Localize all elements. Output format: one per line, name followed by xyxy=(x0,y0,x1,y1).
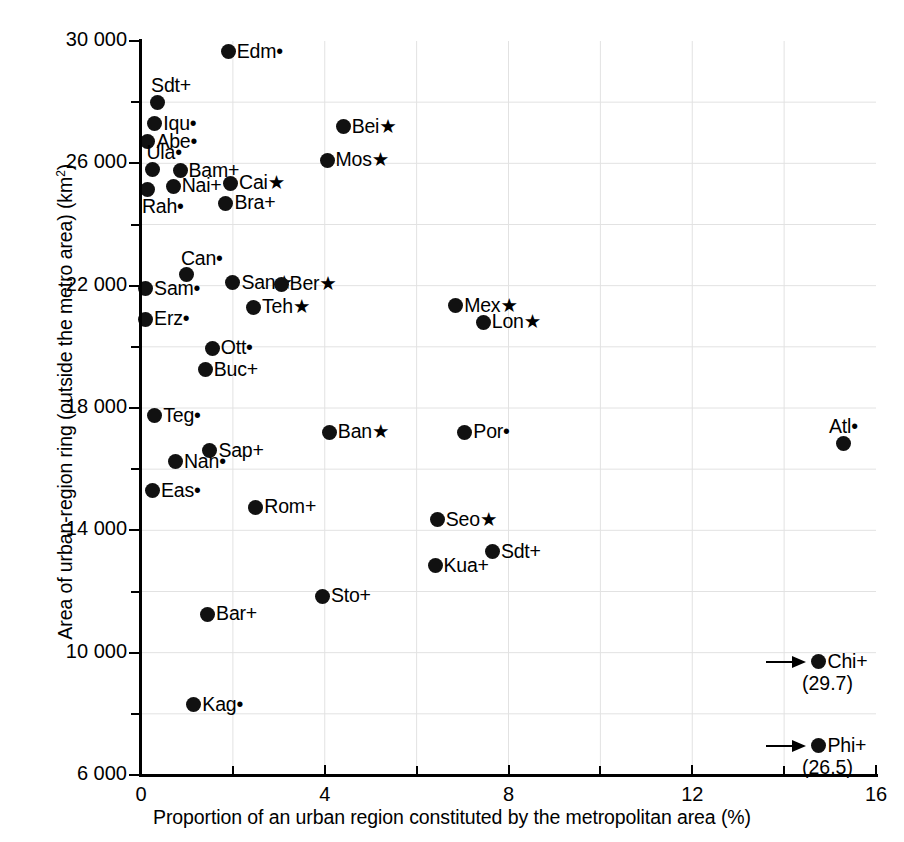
data-point-label: Teg• xyxy=(163,404,200,427)
data-point-label: Atl• xyxy=(829,415,858,438)
data-point-label: Sto+ xyxy=(331,584,371,607)
x-axis-minor-tick xyxy=(416,766,418,776)
data-point-label: Eas• xyxy=(161,479,201,502)
data-point-marker xyxy=(322,425,337,440)
data-point-label: Sam• xyxy=(154,277,200,300)
data-point-label: Sdt+ xyxy=(151,74,191,97)
data-point-marker xyxy=(218,196,233,211)
data-point-label: Can• xyxy=(181,247,223,270)
x-axis-tick-label: 8 xyxy=(479,783,539,806)
y-axis-tick xyxy=(129,40,141,42)
y-axis-minor-tick xyxy=(131,101,141,103)
y-axis-tick-label: 18 000 xyxy=(7,395,127,418)
data-point-marker xyxy=(336,119,351,134)
data-point-label: Seo★ xyxy=(446,508,497,531)
x-axis-tick xyxy=(691,765,693,777)
y-axis-tick-label: 6 000 xyxy=(7,762,127,785)
data-point-marker xyxy=(168,454,183,469)
offscale-point-marker xyxy=(811,738,826,753)
y-axis-tick-label: 26 000 xyxy=(7,150,127,173)
data-point-marker xyxy=(430,512,445,527)
data-point-marker xyxy=(246,300,261,315)
data-point-label: Kag• xyxy=(202,693,243,716)
data-point-label: Teh★ xyxy=(262,295,310,318)
x-axis-tick xyxy=(875,765,877,777)
offscale-point-marker xyxy=(811,654,826,669)
x-axis-tick-label: 0 xyxy=(111,783,171,806)
data-point-label: Kua+ xyxy=(444,554,489,577)
data-point-marker xyxy=(198,362,213,377)
x-axis-tick-label: 16 xyxy=(846,783,904,806)
x-axis-tick xyxy=(324,765,326,777)
data-point-label: Nai+ xyxy=(182,174,222,197)
data-point-label: Por• xyxy=(473,420,509,443)
data-point-label: Mos★ xyxy=(336,148,390,171)
y-axis-tick-label: 10 000 xyxy=(7,640,127,663)
data-point-marker xyxy=(200,607,215,622)
y-axis-tick-label: 30 000 xyxy=(7,28,127,51)
data-point-marker xyxy=(320,153,335,168)
data-point-label: Bar+ xyxy=(216,602,257,625)
x-axis-tick-label: 12 xyxy=(662,783,722,806)
y-axis-minor-tick xyxy=(131,346,141,348)
data-point-label: Nan• xyxy=(184,450,226,473)
offscale-point-value: (26.5) xyxy=(802,756,853,779)
data-point-marker xyxy=(145,483,160,498)
x-axis-tick xyxy=(508,765,510,777)
x-axis-minor-tick xyxy=(232,766,234,776)
offscale-arrow-icon xyxy=(766,653,808,671)
y-axis-tick xyxy=(129,652,141,654)
x-axis-minor-tick xyxy=(599,766,601,776)
data-point-label: Rah• xyxy=(142,195,184,218)
data-point-marker xyxy=(428,558,443,573)
data-point-label: Bei★ xyxy=(352,115,397,138)
data-point-marker xyxy=(205,341,220,356)
x-axis-tick xyxy=(140,765,142,777)
data-point-label: Ula• xyxy=(146,141,181,164)
data-point-label: Ban★ xyxy=(338,420,389,443)
offscale-arrow-icon xyxy=(766,737,808,755)
y-axis-minor-tick xyxy=(131,591,141,593)
y-axis-minor-tick xyxy=(131,713,141,715)
y-axis-tick xyxy=(129,162,141,164)
data-point-marker xyxy=(274,277,289,292)
data-point-label: Buc+ xyxy=(214,358,258,381)
y-axis-tick xyxy=(129,407,141,409)
y-axis-minor-tick xyxy=(131,224,141,226)
data-point-label: Bra+ xyxy=(234,191,275,214)
data-point-marker xyxy=(223,176,238,191)
y-axis-tick-label: 14 000 xyxy=(7,517,127,540)
data-point-marker xyxy=(221,44,236,59)
offscale-point-label: Chi+ xyxy=(828,650,868,673)
y-axis-tick xyxy=(129,285,141,287)
data-point-label: Erz• xyxy=(154,307,189,330)
y-axis-tick-label: 22 000 xyxy=(7,273,127,296)
x-axis-minor-tick xyxy=(783,766,785,776)
data-point-label: Rom+ xyxy=(264,495,316,518)
offscale-point-label: Phi+ xyxy=(828,734,867,757)
x-axis-title: Proportion of an urban region constitute… xyxy=(0,806,904,829)
x-axis-tick-label: 4 xyxy=(295,783,355,806)
y-axis-minor-tick xyxy=(131,468,141,470)
data-point-label: Sdt+ xyxy=(501,540,541,563)
x-axis-title-text: Proportion of an urban region constitute… xyxy=(153,806,751,828)
offscale-point-value: (29.7) xyxy=(802,672,853,695)
scatter-plot-figure: Area of urban-region ring (outside the m… xyxy=(0,0,904,842)
data-point-marker xyxy=(476,315,491,330)
data-point-label: Ber★ xyxy=(290,272,337,295)
data-point-marker xyxy=(166,179,181,194)
data-point-label: Ott• xyxy=(221,336,253,359)
data-point-marker xyxy=(315,589,330,604)
data-point-label: Edm• xyxy=(237,40,283,63)
data-point-label: Lon★ xyxy=(492,310,541,333)
y-axis-tick xyxy=(129,529,141,531)
